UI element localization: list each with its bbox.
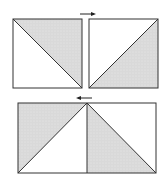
top-left-square bbox=[13, 19, 82, 88]
joined-rectangle bbox=[18, 103, 156, 173]
arrow-right-icon bbox=[80, 12, 96, 16]
quilt-block-diagram bbox=[0, 0, 168, 175]
top-right-square bbox=[89, 19, 158, 88]
arrow-left-icon bbox=[76, 96, 92, 100]
